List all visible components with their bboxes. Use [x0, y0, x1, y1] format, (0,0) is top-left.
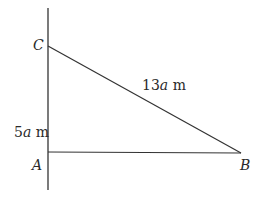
vertex-label-c: C: [33, 37, 44, 53]
vertex-label-b: B: [239, 157, 250, 173]
side-ac-unit: m: [31, 124, 49, 140]
side-label-ac: 5a m: [14, 124, 49, 140]
vertex-label-a: A: [30, 157, 42, 173]
triangle-diagram: C A B 5a m 13a m: [0, 0, 262, 200]
side-label-bc: 13a m: [142, 77, 186, 93]
side-ac-coef: 5: [14, 124, 23, 140]
side-bc-var: a: [160, 77, 168, 93]
side-ab-ground: [48, 152, 241, 153]
side-bc-coef: 13: [142, 77, 160, 93]
side-ac-var: a: [23, 124, 31, 140]
side-bc-unit: m: [168, 77, 186, 93]
side-cb-hypotenuse: [48, 46, 241, 153]
